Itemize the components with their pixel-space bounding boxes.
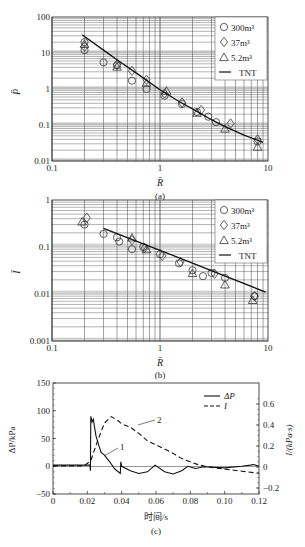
y-tick-label: 0.1 <box>39 120 50 130</box>
curve-annotations: 12 <box>104 415 162 456</box>
x-tick-label: 0.04 <box>114 496 130 506</box>
x-tick-label: 1 <box>158 163 163 173</box>
panel-c-time-history-chart: 00.020.040.060.080.100.12−50050100150−0.… <box>7 378 294 536</box>
legend-label: 300m³ <box>231 206 255 216</box>
legend-label: TNT <box>239 251 257 261</box>
overpressure-curve <box>53 416 259 474</box>
panel-a-pressure-chart: 0.11100.010.1110100 R̄ P̄ (a) 300m³37m³5… <box>11 12 273 201</box>
panel-b-impulse-chart: 0.11100.0010.010.11 R̄ Ī (b) 300m³37m³5.… <box>11 195 273 380</box>
legend-label: TNT <box>239 68 257 78</box>
annotation-label: 2 <box>157 415 162 425</box>
x-tick-label: 1 <box>158 343 163 353</box>
x-tick-label: 0.06 <box>148 496 164 506</box>
legend-label: I <box>223 401 228 411</box>
legend-label: 5.2m³ <box>231 236 252 246</box>
figure-canvas: 0.11100.010.1110100 R̄ P̄ (a) 300m³37m³5… <box>0 0 305 547</box>
y-right-tick-label: 0.6 <box>263 399 275 409</box>
y-tick-label: 1 <box>46 84 51 94</box>
legend-label: 37m³ <box>231 38 250 48</box>
y-tick-label: 10 <box>41 48 51 58</box>
panel-caption: (c) <box>151 526 161 536</box>
y-right-tick-label: 0 <box>263 462 268 472</box>
x-tick-label: 0 <box>51 496 56 506</box>
data-series <box>53 416 259 474</box>
legend: 300m³37m³5.2m³TNT <box>215 200 267 263</box>
panel-caption: (a) <box>155 191 165 201</box>
y-tick-label: −50 <box>36 489 51 499</box>
y-right-tick-label: 0.4 <box>263 420 275 430</box>
panel-caption: (b) <box>155 370 166 380</box>
x-tick-label: 0.12 <box>251 496 267 506</box>
y-tick-label: 150 <box>37 378 51 388</box>
y-tick-label: 0.001 <box>30 336 50 346</box>
annotation-leader-line <box>138 420 155 425</box>
y-tick-label: 100 <box>37 406 51 416</box>
x-tick-label: 0.10 <box>217 496 233 506</box>
x-tick-label: 10 <box>264 343 274 353</box>
x-tick-label: 0.02 <box>79 496 95 506</box>
y-tick-label: 0.01 <box>34 289 50 299</box>
x-axis-label: R̄ <box>156 357 163 368</box>
legend-label: 5.2m³ <box>231 53 252 63</box>
legend-label: ΔP <box>223 391 235 401</box>
y-axis-label: P̄ <box>11 89 22 96</box>
x-tick-label: 10 <box>264 163 274 173</box>
x-axis-label: 时间/s <box>144 511 169 522</box>
figure: 0.11100.010.1110100 R̄ P̄ (a) 300m³37m³5… <box>0 0 305 547</box>
x-axis-label: R̄ <box>156 177 163 188</box>
y-tick-label: 0.1 <box>39 242 50 252</box>
legend-label: 300m³ <box>231 23 255 33</box>
y-axis-label-left: ΔP/kPa <box>7 427 17 454</box>
legend-label: 37m³ <box>231 221 250 231</box>
legend: ΔPI <box>204 391 235 411</box>
y-tick-label: 1 <box>46 195 51 205</box>
x-tick-label: 0.08 <box>182 496 198 506</box>
y-tick-label: 0.01 <box>34 156 50 166</box>
circle-marker <box>199 273 206 280</box>
y-right-tick-label: −0.2 <box>263 483 279 493</box>
y-tick-label: 50 <box>41 434 51 444</box>
annotation-leader-line <box>104 448 118 456</box>
annotation-label: 1 <box>120 442 125 452</box>
y-axis-label-right: I/(kPa·s) <box>284 424 294 456</box>
y-tick-label: 100 <box>37 12 51 22</box>
y-right-tick-label: 0.2 <box>263 441 274 451</box>
axis-ticks: 00.020.040.060.080.100.12−50050100150−0.… <box>36 378 279 506</box>
y-tick-label: 0 <box>46 461 51 471</box>
legend: 300m³37m³5.2m³TNT <box>215 17 267 80</box>
y-axis-label: Ī <box>11 269 22 275</box>
